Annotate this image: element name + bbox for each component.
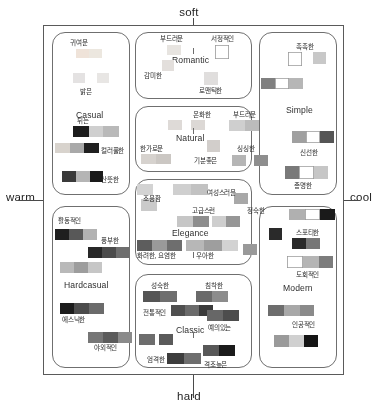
color-swatch bbox=[193, 216, 209, 227]
axis-tick bbox=[193, 332, 194, 338]
color-swatch bbox=[274, 335, 289, 347]
color-swatch-cell bbox=[207, 310, 223, 321]
color-swatch bbox=[305, 209, 320, 220]
keyword-label: 엄격한 bbox=[147, 357, 164, 364]
color-swatch bbox=[261, 78, 275, 89]
color-swatch bbox=[289, 209, 305, 220]
color-swatch bbox=[287, 256, 303, 268]
keyword-label: 부드러운 bbox=[160, 36, 183, 43]
keyword-label: 조용함 bbox=[143, 196, 160, 203]
keyword-label: 한가로운 bbox=[140, 146, 163, 153]
color-swatch bbox=[254, 155, 268, 166]
keyword-label: 예의있는 bbox=[208, 325, 231, 332]
color-swatch-cell bbox=[196, 291, 212, 302]
color-swatch-cell bbox=[203, 345, 219, 356]
color-swatch bbox=[203, 345, 219, 356]
color-swatch bbox=[143, 291, 160, 302]
color-swatch-cell bbox=[97, 73, 109, 83]
keyword-label: 스포티한 bbox=[296, 230, 319, 237]
color-swatch bbox=[319, 256, 333, 268]
color-swatch-cell bbox=[292, 238, 306, 249]
color-swatch-cell bbox=[223, 310, 239, 321]
color-swatch-cell bbox=[285, 166, 299, 179]
axis-tick bbox=[193, 128, 194, 134]
color-swatch-cell bbox=[292, 131, 306, 143]
color-swatch bbox=[159, 334, 173, 345]
keyword-label: 풍부한 bbox=[101, 238, 118, 245]
color-swatch bbox=[89, 126, 103, 137]
keyword-label: 귀여운 bbox=[70, 40, 87, 47]
color-swatch bbox=[167, 240, 182, 251]
color-swatch bbox=[314, 166, 328, 179]
color-swatch bbox=[289, 78, 303, 89]
keyword-label: 부드러운 bbox=[233, 112, 256, 119]
keyword-label: 싱싱한 bbox=[237, 146, 254, 153]
color-swatch-cell bbox=[314, 166, 328, 179]
color-swatch bbox=[191, 184, 208, 195]
color-swatch bbox=[116, 247, 130, 258]
color-swatch-cell bbox=[116, 247, 130, 258]
color-swatch bbox=[60, 262, 74, 273]
keyword-label: 에스닉한 bbox=[62, 317, 85, 324]
color-swatch bbox=[103, 126, 119, 137]
keyword-label: 밝은 bbox=[80, 89, 92, 96]
color-swatch-cell bbox=[212, 291, 228, 302]
color-swatch-cell bbox=[229, 120, 245, 131]
keyword-label: 산뜻한 bbox=[101, 177, 118, 184]
color-swatch-cell bbox=[152, 240, 167, 251]
color-swatch bbox=[74, 262, 88, 273]
color-swatch-cell bbox=[303, 256, 319, 268]
color-swatch-cell bbox=[269, 228, 282, 240]
color-swatch bbox=[76, 171, 90, 182]
group-name-classic: Classic bbox=[176, 325, 204, 335]
color-swatch bbox=[171, 305, 185, 316]
keyword-label: 튀는 bbox=[77, 118, 89, 125]
group-name-natural: Natural bbox=[176, 133, 204, 143]
color-swatch-cell bbox=[313, 52, 326, 64]
color-swatch-cell bbox=[73, 126, 89, 137]
color-swatch-cell bbox=[84, 143, 99, 153]
color-swatch-cell bbox=[299, 166, 314, 179]
color-swatch-cell bbox=[207, 140, 220, 152]
color-swatch bbox=[207, 140, 220, 152]
color-swatch bbox=[70, 143, 84, 153]
axis-tick bbox=[193, 48, 194, 54]
color-swatch-cell bbox=[159, 334, 173, 345]
group-name-elegance: Elegance bbox=[172, 228, 209, 238]
group-box-romantic[interactable] bbox=[135, 32, 252, 99]
keyword-label: 온화한 bbox=[193, 112, 210, 119]
color-swatch-cell bbox=[74, 262, 88, 273]
color-swatch-cell bbox=[254, 155, 268, 166]
color-swatch-cell bbox=[193, 216, 209, 227]
color-swatch bbox=[243, 244, 257, 255]
color-swatch bbox=[234, 193, 248, 204]
keyword-label: 여성스러운 bbox=[207, 190, 236, 197]
color-swatch-cell bbox=[304, 335, 318, 347]
color-swatch-cell bbox=[118, 332, 132, 343]
color-swatch bbox=[137, 240, 152, 251]
keyword-label: 로맨틱한 bbox=[199, 88, 222, 95]
keyword-label: 컬러풀한 bbox=[101, 148, 124, 155]
group-name-simple: Simple bbox=[286, 105, 313, 115]
color-swatch-cell bbox=[74, 303, 89, 314]
color-swatch-cell bbox=[289, 209, 305, 220]
color-swatch-cell bbox=[70, 143, 84, 153]
color-swatch bbox=[177, 216, 193, 227]
color-swatch-cell bbox=[162, 60, 174, 71]
color-swatch-cell bbox=[186, 240, 204, 251]
color-swatch bbox=[292, 238, 306, 249]
color-swatch bbox=[186, 240, 204, 251]
color-swatch-cell bbox=[234, 193, 248, 204]
keyword-label: 활동적인 bbox=[58, 218, 81, 225]
color-swatch-cell bbox=[76, 49, 89, 58]
color-swatch bbox=[102, 247, 116, 258]
color-swatch-cell bbox=[171, 305, 185, 316]
axis-tick bbox=[193, 252, 194, 258]
color-swatch bbox=[306, 238, 320, 249]
group-name-modern: Modern bbox=[283, 283, 313, 293]
color-swatch-cell bbox=[167, 353, 184, 364]
color-swatch bbox=[288, 52, 302, 66]
color-swatch-cell bbox=[69, 229, 83, 240]
color-swatch-cell bbox=[191, 184, 208, 195]
color-swatch bbox=[222, 240, 238, 251]
